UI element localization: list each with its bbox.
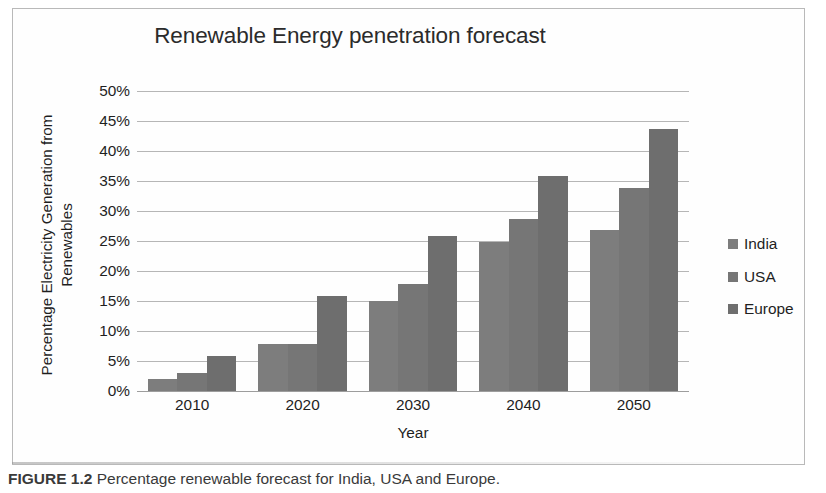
legend-item-europe[interactable]: Europe <box>728 293 808 326</box>
chart-legend: IndiaUSAEurope <box>728 228 808 326</box>
bar-group-2040 <box>479 91 568 391</box>
x-axis-tick-labels: 20102020203020402050 <box>137 396 689 420</box>
x-tick-label-2020: 2020 <box>285 396 319 414</box>
bar-group-2050 <box>590 91 679 391</box>
y-tick-label-20: 20% <box>99 262 130 280</box>
legend-swatch-usa-icon <box>728 272 738 282</box>
figure-caption: FIGURE 1.2 Percentage renewable forecast… <box>8 470 826 488</box>
bar-india-2020[interactable] <box>258 344 288 391</box>
x-tick-label-2040: 2040 <box>506 396 540 414</box>
bar-group-2020 <box>258 91 347 391</box>
y-axis-title: Percentage Electricity Generation from R… <box>37 90 77 400</box>
y-axis-title-line-1: Percentage Electricity Generation from <box>37 90 57 400</box>
y-tick-label-5: 5% <box>108 352 130 370</box>
bar-europe-2010[interactable] <box>207 356 237 391</box>
bar-india-2030[interactable] <box>369 301 399 391</box>
bar-group-2030 <box>369 91 458 391</box>
legend-label-europe: Europe <box>744 300 794 318</box>
y-axis-tick-labels: 50%45%40%35%30%25%20%15%10%5%0% <box>78 91 130 391</box>
scan-artifact-line <box>12 462 772 464</box>
y-tick-label-30: 30% <box>99 202 130 220</box>
figure-caption-number: FIGURE 1.2 <box>8 470 92 487</box>
y-tick-label-0: 0% <box>108 382 130 400</box>
y-tick-label-45: 45% <box>99 112 130 130</box>
legend-label-india: India <box>744 235 777 253</box>
x-tick-label-2030: 2030 <box>396 396 430 414</box>
y-tick-label-15: 15% <box>99 292 130 310</box>
legend-swatch-europe-icon <box>728 304 738 314</box>
y-tick-label-25: 25% <box>99 232 130 250</box>
y-tick-label-10: 10% <box>99 322 130 340</box>
bar-usa-2020[interactable] <box>288 344 318 391</box>
chart-title: Renewable Energy penetration forecast <box>0 23 700 49</box>
bar-india-2010[interactable] <box>148 379 178 391</box>
bar-europe-2040[interactable] <box>538 176 568 391</box>
plot-area <box>137 91 689 391</box>
y-tick-label-40: 40% <box>99 142 130 160</box>
bar-usa-2050[interactable] <box>619 188 649 391</box>
legend-label-usa: USA <box>744 268 776 286</box>
bar-usa-2040[interactable] <box>509 219 539 391</box>
y-axis-title-line-2: Renewables <box>57 90 77 400</box>
legend-item-usa[interactable]: USA <box>728 261 808 294</box>
bar-india-2050[interactable] <box>590 230 620 391</box>
bar-usa-2010[interactable] <box>177 373 207 391</box>
bar-europe-2020[interactable] <box>317 296 347 391</box>
figure-caption-text: Percentage renewable forecast for India,… <box>97 470 500 487</box>
bar-usa-2030[interactable] <box>398 284 428 391</box>
bar-europe-2030[interactable] <box>428 236 458 391</box>
x-tick-label-2050: 2050 <box>617 396 651 414</box>
bar-india-2040[interactable] <box>479 242 509 391</box>
legend-item-india[interactable]: India <box>728 228 808 261</box>
bar-group-2010 <box>148 91 237 391</box>
bars-layer <box>137 91 689 391</box>
gridline-0 <box>137 391 689 392</box>
x-axis-title: Year <box>137 424 689 442</box>
y-tick-label-35: 35% <box>99 172 130 190</box>
x-tick-label-2010: 2010 <box>175 396 209 414</box>
bar-europe-2050[interactable] <box>649 129 679 391</box>
legend-swatch-india-icon <box>728 239 738 249</box>
y-tick-label-50: 50% <box>99 82 130 100</box>
